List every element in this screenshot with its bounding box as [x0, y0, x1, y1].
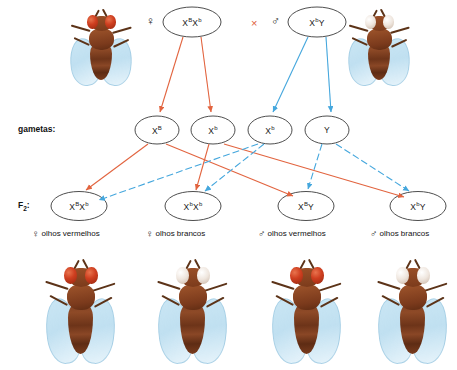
fly-leg: [381, 295, 400, 306]
fly-wing-left: [373, 296, 417, 367]
parent-male-genotype: XbY: [287, 17, 347, 28]
fly-eye-left: [64, 267, 77, 284]
allele-base: Y: [319, 18, 325, 28]
f2-phenotype-text: olhos vermelhos: [268, 229, 326, 238]
fly-leg: [161, 295, 180, 306]
allele-base: Y: [308, 202, 314, 212]
gamete-label-3: Xb: [250, 125, 290, 136]
gamete-label-2: Xb: [193, 125, 233, 136]
parent-male-sex-symbol: ♂: [271, 15, 280, 27]
allele-sup: b: [85, 201, 89, 207]
f2-label-suffix: :: [27, 200, 30, 210]
fly-leg: [275, 295, 294, 306]
fly-leg: [157, 281, 180, 290]
fly-leg: [45, 281, 68, 290]
fly-thorax: [67, 284, 95, 310]
fly-leg: [49, 295, 68, 306]
arrow-Xb-male-to-f2-1: [99, 144, 258, 200]
arrow-Y-to-f2-3: [308, 144, 322, 189]
fly-thorax: [367, 28, 392, 50]
fly-leg: [424, 283, 447, 292]
fly-thorax: [399, 284, 427, 310]
fly-leg: [74, 37, 90, 46]
parent-female-genotype: XBXb: [162, 17, 222, 28]
fly-eye-right: [85, 267, 98, 284]
f2-phenotype-2: ♀olhos brancos: [146, 228, 205, 239]
fly-wing-right: [188, 296, 232, 367]
cross-diagram-canvas: [0, 0, 457, 370]
allele-base: Y: [324, 125, 330, 135]
fly-thorax: [179, 284, 207, 310]
fly-wing-right: [376, 36, 413, 88]
fly-head: [91, 16, 112, 31]
allele-sup: b: [214, 125, 218, 131]
f2-genotype-2: XbXb: [163, 201, 223, 212]
arrow-Xb-male-to-f2-2: [205, 144, 264, 191]
fly-head: [401, 268, 425, 287]
fly-leg: [320, 297, 339, 308]
fly-antenna: [194, 259, 203, 273]
fly-antenna: [308, 259, 317, 273]
f2-row-label: F2:: [18, 200, 30, 212]
gamete-label-1: XB: [137, 125, 177, 136]
fly-illustration-parent-male: [340, 2, 418, 88]
f2-phenotype-text: olhos brancos: [156, 229, 206, 238]
male-symbol: ♂: [258, 228, 266, 239]
fly-antenna: [380, 9, 388, 21]
fly-antenna: [102, 9, 110, 21]
fly-wing-right: [408, 296, 452, 367]
fly-eye-left: [176, 267, 189, 284]
fly-leg: [113, 39, 129, 48]
fly-wing-left: [41, 296, 85, 367]
fly-leg: [204, 283, 227, 292]
cross-symbol: ×: [251, 18, 257, 29]
fly-antenna: [370, 10, 378, 22]
allele-sup: b: [271, 125, 275, 131]
fly-eye-left: [87, 15, 98, 29]
fly-abdomen: [180, 302, 205, 354]
arrow-XB-to-f2-3: [166, 144, 293, 196]
fly-wing-right: [98, 36, 135, 88]
fly-antenna: [82, 259, 91, 273]
parent-female-sex-symbol: ♀: [146, 15, 155, 27]
gametes-row-label: gametas:: [18, 124, 55, 134]
fly-head: [69, 268, 93, 287]
fly-antenna: [71, 260, 80, 274]
f2-phenotype-4: ♂olhos brancos: [370, 228, 429, 239]
fly-eye-right: [197, 267, 210, 284]
arrow-XB-to-f2-1: [86, 144, 148, 190]
allele-sup: b: [199, 201, 203, 207]
fly-wing-left: [66, 36, 103, 88]
fly-eye-right: [105, 15, 116, 29]
fly-eye-left: [290, 267, 303, 284]
f2-phenotype-text: olhos vermelhos: [42, 229, 100, 238]
fly-leg: [94, 297, 113, 308]
fly-thorax: [89, 28, 114, 50]
f2-phenotype-text: olhos brancos: [380, 229, 430, 238]
arrow-male-to-gamete-Xb: [273, 37, 308, 112]
fly-wing-right: [302, 296, 346, 367]
fly-antenna: [297, 260, 306, 274]
fly-antenna: [414, 259, 423, 273]
fly-leg: [206, 297, 225, 308]
arrow-Xb-fem-to-f2-4: [224, 144, 404, 197]
f2-phenotype-3: ♂olhos vermelhos: [258, 228, 326, 239]
fly-eye-left: [396, 267, 409, 284]
male-symbol: ♂: [370, 228, 378, 239]
fly-abdomen: [294, 302, 319, 354]
arrow-female-to-gamete-Xb: [201, 37, 211, 112]
female-symbol: ♀: [32, 228, 40, 239]
fly-head: [369, 16, 390, 31]
f2-genotype-4: XbY: [388, 201, 448, 212]
female-symbol: ♀: [146, 228, 154, 239]
allele-sup: B: [158, 125, 162, 131]
fly-illustration-f2-3: [262, 250, 350, 368]
arrow-Y-to-f2-4: [336, 144, 409, 191]
fly-wing-left: [344, 36, 381, 88]
fly-abdomen: [368, 42, 390, 80]
fly-leg: [318, 283, 341, 292]
arrow-male-to-gamete-Y: [326, 37, 331, 112]
fly-antenna: [403, 260, 412, 274]
fly-antenna: [183, 260, 192, 274]
fly-leg: [352, 37, 368, 46]
